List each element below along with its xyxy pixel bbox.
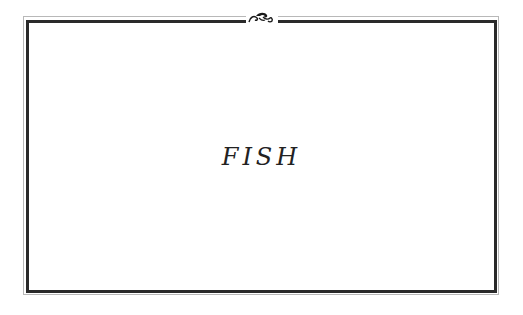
page-title: FISH [0, 143, 523, 171]
scroll-flourish-icon [246, 9, 278, 25]
